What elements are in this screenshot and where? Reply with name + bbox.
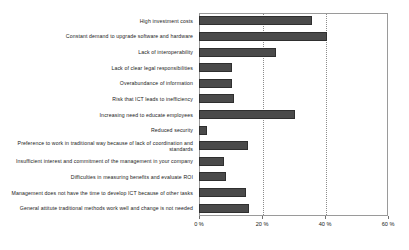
category-label: Risk that ICT leads to inefficiency: [3, 96, 193, 102]
bar: [199, 94, 234, 103]
x-tick-label: 40 %: [319, 221, 332, 228]
bar: [199, 79, 232, 88]
bar: [199, 157, 224, 166]
bar: [199, 16, 312, 25]
bar: [199, 110, 295, 119]
category-label: Reduced security: [3, 127, 193, 133]
category-label: Management does not have the time to dev…: [3, 189, 193, 195]
bar-chart: High investment costsConstant demand to …: [0, 0, 409, 250]
bar: [199, 63, 232, 72]
bar: [199, 48, 276, 57]
bar: [199, 172, 226, 181]
category-label: General attitute traditional methods wor…: [3, 205, 193, 211]
x-tick-label: 60 %: [382, 221, 395, 228]
bars-layer: [199, 13, 388, 216]
bar: [199, 141, 248, 150]
category-label: Constant demand to upgrade software and …: [3, 33, 193, 39]
bar: [199, 32, 327, 41]
x-tick-label: 20 %: [256, 221, 269, 228]
x-axis: 0 %20 %40 %60 %: [199, 216, 388, 240]
x-tick-mark: [199, 216, 200, 219]
x-tick-label: 0 %: [194, 221, 204, 228]
bar: [199, 204, 249, 213]
category-label: Lack of clear legal responsibilities: [3, 65, 193, 71]
bar: [199, 188, 246, 197]
category-label: Lack of interoperability: [3, 49, 193, 55]
category-label: Insufficient interest and commitment of …: [3, 158, 193, 164]
x-tick-mark: [325, 216, 326, 219]
category-label: Increasing need to educate employees: [3, 111, 193, 117]
bar: [199, 126, 207, 135]
category-label: High investment costs: [3, 18, 193, 24]
category-label: Preference to work in traditional way be…: [3, 140, 193, 152]
category-labels: High investment costsConstant demand to …: [0, 13, 196, 216]
x-tick-mark: [262, 216, 263, 219]
category-label: Overabundance of information: [3, 80, 193, 86]
x-tick-mark: [388, 216, 389, 219]
category-label: Difficulties in measuring benefits and e…: [3, 174, 193, 180]
